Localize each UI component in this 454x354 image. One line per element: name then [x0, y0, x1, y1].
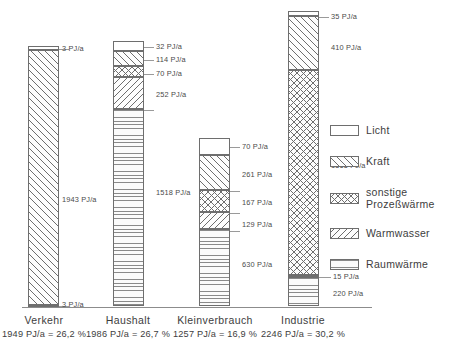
value-haushalt-prozesswaerme: 70 PJ/a: [156, 70, 182, 77]
value-haushalt-warmwasser: 252 PJ/a: [156, 91, 186, 98]
category-label-industrie: Industrie 2246 PJ/a = 30,2 %: [233, 313, 373, 342]
value-industrie-warmwasser: 15 PJ/a: [333, 273, 359, 280]
category-name-industrie: Industrie: [233, 313, 373, 328]
leader-kleinverbrauch-prozess: [230, 191, 240, 192]
segment-haushalt-kraft: [113, 51, 144, 66]
legend-label-warmwasser: Warmwasser: [366, 227, 430, 239]
bar-haushalt: [113, 42, 144, 307]
leader-kleinverbrauch-warmwasser: [230, 213, 240, 214]
segment-kleinverbrauch-warmwasser: [199, 212, 230, 229]
segment-industrie-kraft: [288, 16, 319, 70]
leader-industrie-licht: [319, 17, 329, 18]
legend-swatch-kraft: [330, 156, 359, 167]
segment-kleinverbrauch-licht: [199, 138, 230, 155]
segment-industrie-raumwaerme: [288, 277, 319, 306]
value-kleinverbrauch-prozesswaerme: 167 PJ/a: [242, 199, 272, 206]
value-verkehr-licht: 3 PJ/a: [62, 45, 84, 52]
legend-label-licht: Licht: [366, 124, 390, 136]
legend-swatch-licht: [330, 125, 359, 136]
value-industrie-licht: 35 PJ/a: [331, 13, 357, 20]
legend-item-warmwasser: Warmwasser: [330, 227, 430, 239]
legend-label-prozesswaerme-line2: Prozeßwärme: [366, 198, 435, 210]
legend-label-raumwaerme: Raumwärme: [366, 258, 428, 270]
legend-item-prozesswaerme: sonstige Prozeßwärme: [330, 186, 435, 210]
bar-verkehr: [28, 47, 59, 307]
segment-kleinverbrauch-raumwaerme: [199, 229, 230, 306]
legend-swatch-prozesswaerme: [330, 193, 359, 204]
leader-haushalt-kraft: [144, 60, 154, 61]
leader-kleinverbrauch-raumwaerme: [230, 231, 240, 232]
legend-label-prozesswaerme-line1: sonstige: [366, 186, 435, 198]
legend-item-licht: Licht: [330, 124, 390, 136]
segment-haushalt-raumwaerme: [113, 109, 144, 306]
segment-haushalt-licht: [113, 41, 144, 51]
leader-haushalt-licht: [144, 47, 154, 48]
x-axis-baseline: [22, 307, 372, 308]
legend-label-prozesswaerme-wrap: sonstige Prozeßwärme: [366, 186, 435, 210]
legend-item-kraft: Kraft: [330, 155, 390, 167]
category-total-industrie: 2246 PJ/a = 30,2 %: [233, 328, 373, 341]
bar-kleinverbrauch: [199, 139, 230, 307]
segment-haushalt-warmwasser: [113, 77, 144, 109]
value-kleinverbrauch-kraft: 261 PJ/a: [242, 171, 272, 178]
legend-item-raumwaerme: Raumwärme: [330, 258, 428, 270]
leader-industrie-warmwasser: [319, 277, 331, 278]
value-haushalt-raumwaerme: 1518 PJ/a: [156, 189, 191, 196]
legend-label-kraft: Kraft: [366, 155, 390, 167]
leader-kleinverbrauch-licht: [230, 147, 240, 148]
value-verkehr-kraft: 1943 PJ/a: [62, 196, 97, 203]
bar-industrie: [288, 12, 319, 307]
leader-haushalt-warmwasser: [144, 110, 154, 111]
value-industrie-kraft: 410 PJ/a: [331, 44, 361, 51]
segment-haushalt-prozesswaerme: [113, 66, 144, 77]
value-kleinverbrauch-raumwaerme: 630 PJ/a: [242, 261, 272, 268]
segment-kleinverbrauch-prozesswaerme: [199, 190, 230, 212]
leader-haushalt-prozess: [144, 74, 154, 75]
legend-swatch-warmwasser: [330, 228, 359, 239]
value-haushalt-kraft: 114 PJ/a: [156, 56, 186, 63]
segment-industrie-prozesswaerme: [288, 70, 319, 275]
value-kleinverbrauch-warmwasser: 129 PJ/a: [242, 221, 272, 228]
value-haushalt-licht: 32 PJ/a: [156, 43, 182, 50]
segment-verkehr-kraft: [28, 50, 59, 305]
stacked-bar-chart: 3 PJ/a 1943 PJ/a 3 PJ/a 32 PJ/a 114 PJ/a…: [0, 0, 454, 354]
value-industrie-raumwaerme: 220 PJ/a: [333, 290, 363, 297]
segment-kleinverbrauch-kraft: [199, 155, 230, 190]
value-kleinverbrauch-licht: 70 PJ/a: [242, 143, 268, 150]
legend-swatch-raumwaerme: [330, 259, 359, 270]
